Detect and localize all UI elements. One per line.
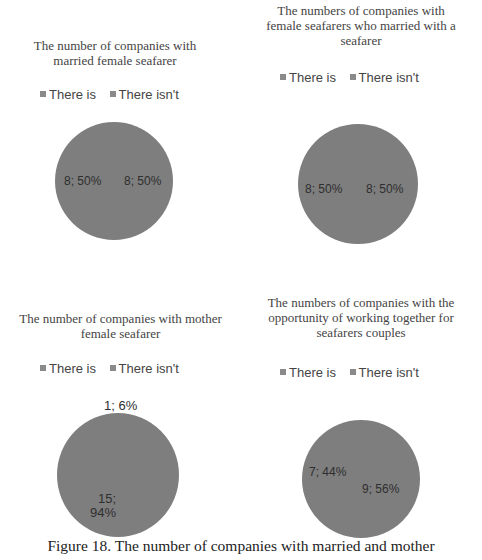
chart2-label-there-isnt: 8; 50%: [366, 182, 403, 196]
chart3-label-there-isnt: 15; 94%: [90, 492, 116, 520]
chart4-label-there-isnt: 9; 56%: [362, 482, 399, 496]
legend-swatch-icon: [350, 369, 356, 375]
legend-item-there-is: There is: [40, 361, 96, 376]
chart1-label-there-isnt: 8; 50%: [124, 174, 161, 188]
legend-swatch-icon: [350, 74, 356, 80]
legend-swatch-icon: [280, 74, 286, 80]
figure-caption: Figure 18. The number of companies with …: [0, 537, 482, 555]
chart3-title: The number of companies with mother fema…: [0, 311, 241, 341]
chart3-label-there-is: 1; 6%: [104, 399, 137, 413]
chart3-legend: There is There isn't: [40, 361, 189, 376]
legend-item-there-isnt: There isn't: [110, 87, 179, 102]
legend-swatch-icon: [110, 365, 116, 371]
legend-item-there-is: There is: [40, 87, 96, 102]
chart1-title: The number of companies with married fem…: [0, 38, 230, 68]
legend-item-there-isnt: There isn't: [350, 70, 419, 85]
legend-item-there-is: There is: [280, 70, 336, 85]
chart4-label-there-is: 7; 44%: [309, 465, 346, 479]
chart1-label-there-is: 8; 50%: [64, 174, 101, 188]
chart2-legend: There is There isn't: [280, 70, 429, 85]
legend-item-there-isnt: There isn't: [110, 361, 179, 376]
legend-swatch-icon: [40, 91, 46, 97]
chart1-legend: There is There isn't: [40, 87, 189, 102]
chart2-title: The numbers of companies with female sea…: [241, 3, 481, 48]
chart3-pie: [57, 413, 179, 537]
chart4-title: The numbers of companies with the opport…: [241, 295, 481, 340]
legend-item-there-is: There is: [280, 365, 336, 380]
legend-swatch-icon: [280, 369, 286, 375]
legend-item-there-isnt: There isn't: [350, 365, 419, 380]
chart4-pie: [302, 420, 420, 538]
chart4-legend: There is There isn't: [280, 365, 429, 380]
chart2-label-there-is: 8; 50%: [305, 182, 342, 196]
legend-swatch-icon: [40, 365, 46, 371]
legend-swatch-icon: [110, 91, 116, 97]
